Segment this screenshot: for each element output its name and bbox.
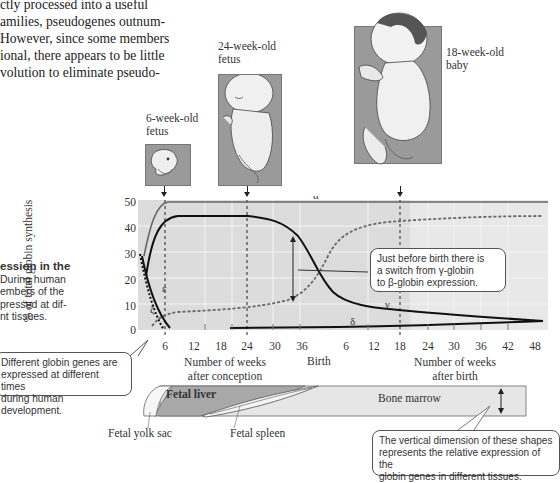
series-label-delta: δ xyxy=(350,315,355,327)
callout-line: Different globin genes are xyxy=(1,357,125,369)
x-tick: 18 xyxy=(394,340,406,352)
body-text-line: ctly processed into a useful xyxy=(0,0,212,13)
callout-line: Just before birth there is xyxy=(377,253,499,265)
figure-caption: ession in the During human embers of the… xyxy=(0,260,120,323)
callout-line: The vertical dimension of these shapes xyxy=(379,435,553,447)
fetus-24-week-icon xyxy=(219,75,281,185)
callout-line: to β-globin expression. xyxy=(377,277,499,289)
label-bone-marrow: Bone marrow xyxy=(378,392,441,404)
label-line: Number of weeks xyxy=(400,355,510,369)
x-tick: 30 xyxy=(269,340,281,352)
callout-vertical-dimension: The vertical dimension of these shapes r… xyxy=(372,430,560,476)
body-text-line: volution to eliminate pseudo- xyxy=(0,64,212,81)
x-tick: 12 xyxy=(188,340,200,352)
y-tick: 30 xyxy=(118,248,136,260)
fetus-6-week-icon xyxy=(146,145,190,185)
x-tick: 42 xyxy=(502,340,514,352)
x-axis-label-conception: Number of weeks after conception xyxy=(170,355,280,383)
fetus-24-week-image xyxy=(218,74,282,186)
callout-switch: Just before birth there is a switch from… xyxy=(370,248,506,292)
series-label-gamma: γ xyxy=(384,298,390,310)
callout-line: globin genes in different tissues. xyxy=(379,471,553,483)
body-text: ctly processed into a useful amilies, ps… xyxy=(0,0,212,81)
body-text-line: However, since some members xyxy=(0,30,212,47)
x-tick: 48 xyxy=(529,340,541,352)
callout-different-times: Different globin genes are expressed at … xyxy=(0,352,132,396)
x-tick: 12 xyxy=(368,340,380,352)
caption-title: ession in the xyxy=(0,260,120,273)
series-label-zeta: ζ xyxy=(150,303,155,316)
callout-pointer xyxy=(128,338,158,360)
baby-18-week-icon xyxy=(355,7,441,167)
x-tick: 6 xyxy=(343,340,349,352)
x-axis-label-birth: Birth xyxy=(307,355,331,367)
x-tick: 36 xyxy=(475,340,487,352)
callout-line: a switch from γ-globin xyxy=(377,265,499,277)
x-tick: 30 xyxy=(448,340,460,352)
body-text-line: amilies, pseudogenes outnum- xyxy=(0,13,212,30)
y-tick: 0 xyxy=(118,324,136,336)
label-line: after birth xyxy=(400,369,510,383)
label-line: baby xyxy=(446,59,504,72)
caption-line: nt tissues. xyxy=(0,310,120,323)
label-6-week-fetus: 6-week-old fetus xyxy=(146,112,198,138)
x-tick: 24 xyxy=(422,340,434,352)
label-24-week-fetus: 24-week-old fetus xyxy=(218,40,276,66)
y-tick: 10 xyxy=(118,300,136,312)
x-tick: 18 xyxy=(215,340,227,352)
label-line: 18-week-old xyxy=(446,46,504,59)
x-tick: 36 xyxy=(296,340,308,352)
label-line: after conception xyxy=(170,369,280,383)
label-line: 24-week-old xyxy=(218,40,276,53)
callout-line: during human development. xyxy=(1,393,125,417)
label-fetal-spleen: Fetal spleen xyxy=(230,427,285,439)
body-text-line: ional, there appears to be little xyxy=(0,47,212,64)
baby-18-week-image xyxy=(354,26,442,164)
callout-line: represents the relative expression of th… xyxy=(379,447,553,471)
y-axis-label: % of total globin synthesis xyxy=(22,191,34,331)
callout-line: expressed at different times xyxy=(1,369,125,393)
label-fetal-liver: Fetal liver xyxy=(166,388,216,400)
x-tick: 24 xyxy=(241,340,253,352)
y-tick: 50 xyxy=(118,196,136,208)
label-line: Number of weeks xyxy=(170,355,280,369)
caption-line: pressed at dif- xyxy=(0,298,120,311)
label-18-week-baby: 18-week-old baby xyxy=(446,46,504,72)
caption-line: During human xyxy=(0,273,120,286)
x-axis-label-after-birth: Number of weeks after birth xyxy=(400,355,510,383)
caption-line: embers of the xyxy=(0,285,120,298)
y-tick: 40 xyxy=(118,222,136,234)
label-line: fetus xyxy=(218,53,276,66)
series-label-epsilon: ε xyxy=(162,282,167,294)
label-line: fetus xyxy=(146,125,198,138)
fetus-6-week-image xyxy=(145,144,191,186)
y-tick: 20 xyxy=(118,274,136,286)
series-label-alpha: α xyxy=(313,196,319,201)
label-line: 6-week-old xyxy=(146,112,198,125)
label-fetal-yolk-sac: Fetal yolk sac xyxy=(108,427,172,439)
x-tick: 6 xyxy=(162,340,168,352)
